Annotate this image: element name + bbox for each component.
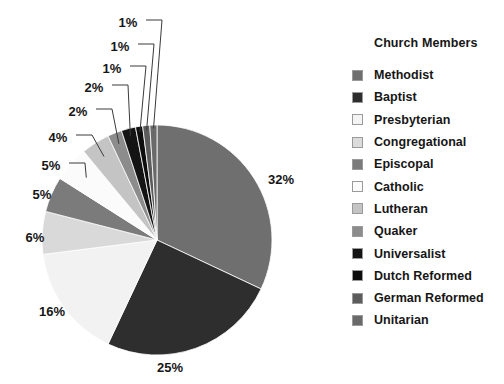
legend-item-label: Quaker bbox=[374, 224, 417, 238]
pie-slice-value-label: 1% bbox=[119, 15, 138, 30]
legend-item[interactable]: German Reformed bbox=[352, 287, 502, 309]
legend-item[interactable]: Methodist bbox=[352, 64, 502, 86]
legend-swatch-icon bbox=[352, 270, 363, 281]
legend-item[interactable]: Quaker bbox=[352, 220, 502, 242]
legend-item[interactable]: Universalist bbox=[352, 242, 502, 264]
legend-item[interactable]: Episcopal bbox=[352, 153, 502, 175]
legend-item[interactable]: Catholic bbox=[352, 175, 502, 197]
pie-slice-value-label: 2% bbox=[69, 104, 88, 119]
legend-swatch-icon bbox=[352, 203, 363, 214]
legend-item[interactable]: Unitarian bbox=[352, 309, 502, 331]
legend-item-label: Congregational bbox=[374, 135, 466, 149]
legend-item[interactable]: Dutch Reformed bbox=[352, 265, 502, 287]
pie-slices-group bbox=[42, 125, 272, 355]
pie-slice-value-label: 4% bbox=[49, 130, 68, 145]
legend-item-label: Methodist bbox=[374, 68, 433, 82]
pie-slice-value-label: 1% bbox=[111, 39, 130, 54]
legend-item-label: Episcopal bbox=[374, 157, 434, 171]
legend-swatch-icon bbox=[352, 293, 363, 304]
legend-item-label: Unitarian bbox=[374, 313, 429, 327]
pie-slice-value-label: 25% bbox=[157, 360, 183, 375]
legend-item-label: Dutch Reformed bbox=[374, 269, 472, 283]
legend-swatch-icon bbox=[352, 248, 363, 259]
pie-slice-value-label: 5% bbox=[33, 187, 52, 202]
legend-swatch-icon bbox=[352, 181, 363, 192]
pie-slice-value-label: 16% bbox=[39, 304, 65, 319]
pie-slice-value-label: 6% bbox=[26, 230, 45, 245]
pie-chart-figure: 32%25%16%6%5%5%4%2%2%1%1%1% Church Membe… bbox=[0, 0, 504, 384]
legend-item-label: Presbyterian bbox=[374, 113, 450, 127]
legend-swatch-icon bbox=[352, 315, 363, 326]
chart-legend: Church Members MethodistBaptistPresbyter… bbox=[352, 36, 502, 332]
legend-item-label: Baptist bbox=[374, 90, 417, 104]
legend-swatch-icon bbox=[352, 92, 363, 103]
legend-swatch-icon bbox=[352, 70, 363, 81]
legend-item[interactable]: Baptist bbox=[352, 86, 502, 108]
legend-item-label: Lutheran bbox=[374, 202, 428, 216]
legend-swatch-icon bbox=[352, 159, 363, 170]
legend-title: Church Members bbox=[374, 36, 502, 50]
legend-item[interactable]: Presbyterian bbox=[352, 109, 502, 131]
legend-item[interactable]: Lutheran bbox=[352, 198, 502, 220]
legend-item-label: Catholic bbox=[374, 180, 424, 194]
pie-leader-line bbox=[130, 66, 146, 132]
pie-slice-value-label: 5% bbox=[42, 158, 61, 173]
pie-slice-value-label: 32% bbox=[268, 172, 294, 187]
legend-item[interactable]: Congregational bbox=[352, 131, 502, 153]
pie-slice-value-label: 2% bbox=[85, 80, 104, 95]
legend-items-list: MethodistBaptistPresbyterianCongregation… bbox=[352, 64, 502, 332]
legend-item-label: Universalist bbox=[374, 247, 445, 261]
legend-item-label: German Reformed bbox=[374, 291, 484, 305]
legend-swatch-icon bbox=[352, 137, 363, 148]
legend-swatch-icon bbox=[352, 114, 363, 125]
legend-swatch-icon bbox=[352, 226, 363, 237]
pie-slice-value-label: 1% bbox=[103, 61, 122, 76]
pie-leader-line bbox=[138, 44, 154, 130]
